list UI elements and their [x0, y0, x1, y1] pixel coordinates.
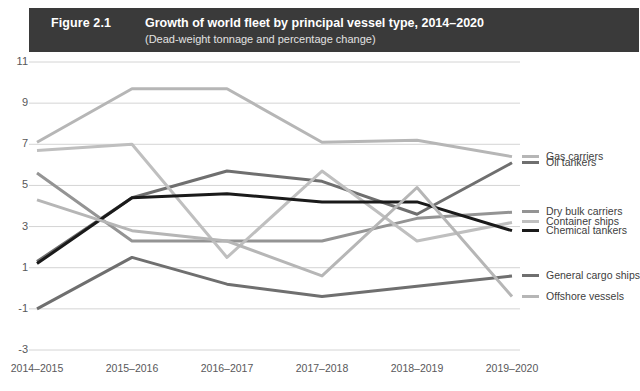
legend-swatch: [522, 220, 539, 223]
y-axis-tick-label: 11: [0, 55, 28, 67]
x-axis-tick-label: 2014–2015: [0, 362, 82, 374]
x-axis-tick-label: 2017–2018: [277, 362, 367, 374]
legend-swatch: [522, 274, 539, 277]
figure-banner: Figure 2.1 Growth of world fleet by prin…: [29, 8, 639, 52]
series-line: [37, 194, 512, 264]
y-axis-tick-label: -1: [0, 302, 28, 314]
y-axis-tick-label: -3: [0, 343, 28, 355]
line-chart: [0, 52, 639, 391]
series-line: [37, 163, 512, 262]
legend-swatch: [522, 155, 539, 158]
legend-label: General cargo ships: [546, 269, 640, 281]
x-axis-tick-label: 2015–2016: [87, 362, 177, 374]
legend-label: Offshore vessels: [546, 290, 624, 302]
series-lines: [37, 89, 512, 309]
series-line: [37, 257, 512, 308]
legend-swatch: [522, 210, 539, 213]
y-axis-tick-label: 9: [0, 96, 28, 108]
legend-swatch: [522, 161, 539, 164]
figure-subtitle: (Dead-weight tonnage and percentage chan…: [145, 33, 376, 45]
y-axis-tick-label: 1: [0, 261, 28, 273]
legend-label: Oil tankers: [546, 156, 596, 168]
series-line: [37, 173, 512, 241]
figure-title: Growth of world fleet by principal vesse…: [145, 16, 484, 30]
legend-label: Chemical tankers: [546, 224, 627, 236]
y-axis-tick-label: 5: [0, 178, 28, 190]
x-axis-tick-label: 2016–2017: [182, 362, 272, 374]
x-axis-tick-label: 2019–2020: [467, 362, 557, 374]
figure-number: Figure 2.1: [51, 16, 111, 30]
y-axis-tick-label: 3: [0, 220, 28, 232]
legend-swatch: [522, 229, 539, 232]
plot-area: 1197531-1-3 2014–20152015–20162016–20172…: [0, 52, 639, 391]
legend-swatch: [522, 295, 539, 298]
x-axis-tick-label: 2018–2019: [372, 362, 462, 374]
y-axis-tick-label: 7: [0, 137, 28, 149]
